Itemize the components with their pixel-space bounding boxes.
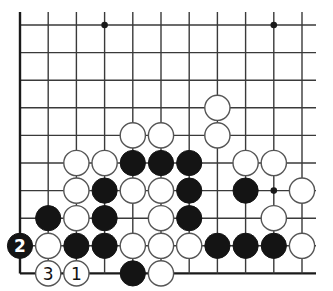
white-stone-icon — [148, 233, 173, 258]
white-stone-icon — [148, 123, 173, 148]
white-stone-icon — [120, 123, 145, 148]
white-stone — [148, 178, 173, 203]
white-stone-icon — [233, 150, 258, 175]
white-stone — [64, 150, 89, 175]
numbered-black-stone: 2 — [7, 233, 32, 258]
black-stone — [92, 233, 117, 258]
black-stone-icon — [177, 206, 202, 231]
move-number-label: 2 — [14, 236, 26, 256]
black-stone-icon — [233, 233, 258, 258]
white-stone — [36, 233, 61, 258]
black-stone — [36, 206, 61, 231]
black-stone-icon — [92, 206, 117, 231]
black-stone — [64, 233, 89, 258]
white-stone — [205, 95, 230, 120]
star-point-icon — [271, 22, 278, 29]
white-stone-icon — [205, 123, 230, 148]
white-stone-icon — [205, 95, 230, 120]
white-stone-icon — [120, 178, 145, 203]
white-stone — [64, 178, 89, 203]
black-stone — [92, 206, 117, 231]
black-stone — [148, 150, 173, 175]
black-stone — [261, 233, 286, 258]
white-stone-icon — [148, 178, 173, 203]
black-stone — [205, 233, 230, 258]
move-number-label: 1 — [71, 264, 82, 284]
white-stone — [148, 206, 173, 231]
white-stone-icon — [261, 150, 286, 175]
white-stone-icon — [148, 206, 173, 231]
white-stone — [289, 233, 314, 258]
white-stone — [261, 150, 286, 175]
black-stone — [233, 178, 258, 203]
white-stone-icon — [289, 233, 314, 258]
black-stone-icon — [64, 233, 89, 258]
black-stone — [233, 233, 258, 258]
go-board: 231 — [0, 0, 333, 291]
black-stone-icon — [148, 150, 173, 175]
white-stone — [261, 206, 286, 231]
black-stone — [92, 178, 117, 203]
numbered-white-stone: 3 — [36, 261, 61, 286]
white-stone — [148, 123, 173, 148]
white-stone — [120, 178, 145, 203]
black-stone-icon — [120, 261, 145, 286]
black-stone — [120, 150, 145, 175]
star-point-icon — [271, 187, 278, 194]
white-stone-icon — [92, 150, 117, 175]
white-stone — [148, 261, 173, 286]
white-stone-icon — [64, 150, 89, 175]
white-stone — [205, 123, 230, 148]
black-stone-icon — [92, 178, 117, 203]
white-stone-icon — [289, 178, 314, 203]
black-stone — [177, 178, 202, 203]
white-stone-icon — [36, 233, 61, 258]
white-stone — [64, 206, 89, 231]
black-stone-icon — [205, 233, 230, 258]
white-stone — [289, 178, 314, 203]
black-stone — [177, 206, 202, 231]
white-stone — [120, 123, 145, 148]
numbered-white-stone: 1 — [64, 261, 89, 286]
white-stone — [177, 233, 202, 258]
white-stone-icon — [177, 233, 202, 258]
white-stone-icon — [261, 206, 286, 231]
black-stone-icon — [120, 150, 145, 175]
black-stone-icon — [92, 233, 117, 258]
white-stone-icon — [148, 261, 173, 286]
black-stone-icon — [233, 178, 258, 203]
white-stone — [92, 150, 117, 175]
white-stone-icon — [64, 206, 89, 231]
white-stone-icon — [120, 233, 145, 258]
black-stone — [177, 150, 202, 175]
black-stone — [120, 261, 145, 286]
black-stone-icon — [177, 150, 202, 175]
star-point-icon — [101, 22, 108, 29]
black-stone-icon — [261, 233, 286, 258]
black-stone-icon — [36, 206, 61, 231]
white-stone — [233, 150, 258, 175]
white-stone — [120, 233, 145, 258]
move-number-label: 3 — [43, 264, 54, 284]
black-stone-icon — [177, 178, 202, 203]
white-stone-icon — [64, 178, 89, 203]
white-stone — [148, 233, 173, 258]
